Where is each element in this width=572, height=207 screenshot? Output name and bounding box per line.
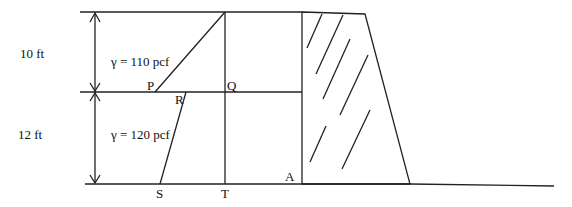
ground-line-right [410,184,554,186]
layer2-unit-weight-label: γ = 120 pcf [111,128,170,141]
point-label-T: T [221,187,229,200]
wall-hatch [316,15,343,74]
wall-hatch [340,55,368,115]
layer1-thickness-label: 10 ft [20,47,44,60]
point-label-P: P [147,79,154,92]
wall-hatch [342,110,370,169]
wall-hatch [310,126,326,162]
point-label-A: A [285,170,294,183]
point-label-S: S [156,187,163,200]
retaining-wall [302,12,410,184]
line-P-to-top [155,12,225,92]
point-label-R: R [175,93,184,106]
point-label-Q: Q [227,79,236,92]
layer2-thickness-label: 12 ft [18,128,42,141]
wall-hatch [323,39,350,99]
layer1-unit-weight-label: γ = 110 pcf [111,55,169,68]
wall-hatch [307,14,322,48]
